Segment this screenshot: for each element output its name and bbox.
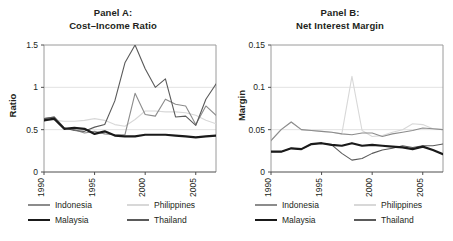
- series-line-thailand: [44, 45, 216, 131]
- legend-item-indonesia: Indonesia: [28, 200, 127, 210]
- x-tick-label: 1990: [36, 178, 46, 197]
- legend-label-malaysia: Malaysia: [282, 215, 316, 225]
- legend-swatch-indonesia: [28, 204, 50, 205]
- y-tick-label: 0.1: [253, 82, 265, 92]
- legend-label-malaysia: Malaysia: [55, 215, 89, 225]
- legend-swatch-thailand: [127, 219, 149, 220]
- legend-item-malaysia: Malaysia: [255, 215, 354, 225]
- y-tick-label: 1.5: [26, 40, 38, 50]
- legend-swatch-philippines: [354, 204, 376, 205]
- plot-frame: [44, 45, 216, 172]
- legend-item-thailand: Thailand: [354, 215, 453, 225]
- y-tick-label: 0: [33, 167, 38, 177]
- plot-frame: [271, 45, 443, 172]
- panel-b-plot-area: 00.050.10.151990199520002005: [227, 0, 453, 200]
- x-tick-label: 2000: [137, 178, 147, 197]
- legend-swatch-malaysia: [255, 219, 277, 221]
- panel-b-legend: Indonesia Philippines Malaysia Thailand: [227, 200, 453, 225]
- panel-a-legend: Indonesia Philippines Malaysia Thailand: [0, 200, 226, 225]
- panel-b: Panel B: Net Interest Margin Margin 00.0…: [227, 0, 453, 241]
- legend-label-philippines: Philippines: [154, 200, 195, 210]
- legend-item-philippines: Philippines: [127, 200, 226, 210]
- panel-a-plot-area: 00.511.51990199520002005: [0, 0, 226, 200]
- two-panel-line-chart-figure: Panel A: Cost–Income Ratio Ratio 00.511.…: [0, 0, 453, 241]
- series-line-philippines: [271, 76, 443, 140]
- legend-item-indonesia: Indonesia: [255, 200, 354, 210]
- legend-swatch-philippines: [127, 204, 149, 205]
- legend-label-thailand: Thailand: [154, 215, 187, 225]
- y-tick-label: 0.5: [26, 125, 38, 135]
- x-tick-label: 1995: [87, 178, 97, 197]
- x-tick-label: 2005: [415, 178, 425, 197]
- legend-item-thailand: Thailand: [127, 215, 226, 225]
- y-tick-label: 0.05: [248, 125, 265, 135]
- series-line-indonesia: [271, 122, 443, 141]
- x-tick-label: 2000: [364, 178, 374, 197]
- legend-item-malaysia: Malaysia: [28, 215, 127, 225]
- legend-swatch-indonesia: [255, 204, 277, 205]
- x-tick-label: 1990: [263, 178, 273, 197]
- series-line-thailand: [271, 143, 443, 160]
- y-tick-label: 0: [260, 167, 265, 177]
- legend-label-indonesia: Indonesia: [55, 200, 92, 210]
- legend-label-philippines: Philippines: [381, 200, 422, 210]
- series-line-malaysia: [271, 143, 443, 154]
- legend-label-indonesia: Indonesia: [282, 200, 319, 210]
- legend-swatch-thailand: [354, 219, 376, 220]
- x-tick-label: 2005: [188, 178, 198, 197]
- y-tick-label: 1: [33, 82, 38, 92]
- panel-a: Panel A: Cost–Income Ratio Ratio 00.511.…: [0, 0, 226, 241]
- y-tick-label: 0.15: [248, 40, 265, 50]
- legend-label-thailand: Thailand: [381, 215, 414, 225]
- legend-swatch-malaysia: [28, 219, 50, 221]
- x-tick-label: 1995: [314, 178, 324, 197]
- legend-item-philippines: Philippines: [354, 200, 453, 210]
